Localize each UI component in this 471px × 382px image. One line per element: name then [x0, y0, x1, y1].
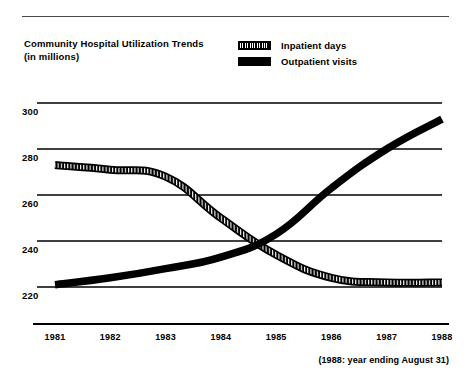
chart-figure: Community Hospital Utilization Trends (i…	[0, 0, 471, 382]
plot-svg	[0, 0, 471, 382]
plot-area: 220240260280300 198119821983198419851986…	[0, 0, 471, 382]
y-axis-tick-label: 220	[22, 290, 52, 301]
chart-footnote: (1988: year ending August 31)	[318, 355, 449, 365]
x-axis-tick-label: 1984	[201, 332, 241, 342]
x-axis-tick-label: 1981	[35, 332, 75, 342]
series-fill-inpatient-days	[55, 165, 442, 283]
series-layer	[55, 119, 442, 285]
x-axis-tick-label: 1983	[146, 332, 186, 342]
y-axis-tick-label: 280	[22, 152, 52, 163]
x-axis-tick-label: 1985	[256, 332, 296, 342]
y-axis-tick-label: 240	[22, 244, 52, 255]
x-axis-tick-label: 1982	[90, 332, 130, 342]
y-axis-tick-label: 300	[22, 106, 52, 117]
y-axis-tick-label: 260	[22, 198, 52, 209]
x-axis-tick-label: 1987	[367, 332, 407, 342]
series-line-outpatient-visits	[55, 119, 442, 285]
x-axis-tick-label: 1988	[422, 332, 462, 342]
x-axis-tick-label: 1986	[311, 332, 351, 342]
gridlines	[37, 103, 442, 287]
series-line-inpatient-days	[55, 165, 442, 283]
